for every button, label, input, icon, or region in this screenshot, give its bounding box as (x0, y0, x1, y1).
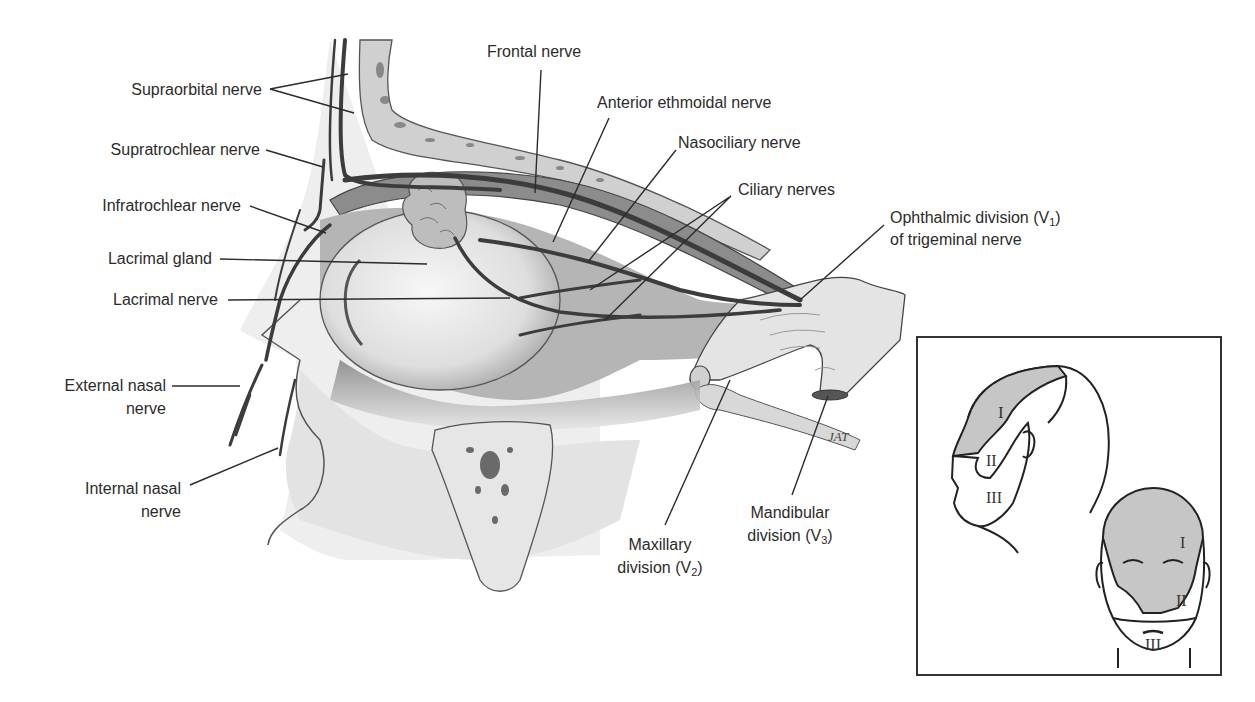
label-mandibular-line1: Mandibular (730, 503, 850, 522)
label-external-nasal-nerve: External nasal nerve (65, 376, 166, 418)
dermatome-drawings: I II III I II III (918, 338, 1220, 674)
label-maxillary-division: Maxillary division (V2) (600, 535, 720, 577)
trigeminal-ganglion (690, 277, 905, 395)
frontal-region-I (1103, 488, 1203, 613)
label-lacrimal-nerve: Lacrimal nerve (113, 290, 218, 309)
label-maxillary-line1: Maxillary (600, 535, 720, 554)
frontal-label-III: III (1145, 636, 1161, 653)
mandibular-stump (812, 390, 848, 400)
profile-region-I (953, 366, 1066, 456)
leader-internal-nasal (190, 448, 278, 485)
label-ophthalmic-line1: Ophthalmic division (V1) (890, 208, 1061, 227)
label-external-nasal-line2: nerve (65, 399, 166, 418)
label-mandibular-line2: division (V3) (730, 526, 850, 545)
dermatome-inset: I II III I II III (916, 336, 1222, 676)
label-internal-nasal-line2: nerve (85, 502, 181, 521)
artist-signature: JAT (828, 429, 849, 444)
label-nasociliary-nerve: Nasociliary nerve (678, 133, 801, 152)
label-ophthalmic-division: Ophthalmic division (V1) of trigeminal n… (890, 208, 1061, 249)
label-internal-nasal-line1: Internal nasal (85, 479, 181, 498)
label-lacrimal-gland: Lacrimal gland (108, 249, 212, 268)
label-ciliary-nerves: Ciliary nerves (738, 180, 835, 199)
label-anterior-ethmoidal-nerve: Anterior ethmoidal nerve (597, 93, 771, 112)
label-internal-nasal-nerve: Internal nasal nerve (85, 479, 181, 521)
profile-label-II: II (986, 452, 997, 469)
frontal-label-I: I (1180, 534, 1185, 551)
frontal-label-II: II (1176, 592, 1187, 609)
label-infratrochlear-nerve: Infratrochlear nerve (102, 196, 241, 215)
frontal-mouth (1143, 631, 1163, 633)
label-maxillary-line2: division (V2) (600, 558, 720, 577)
label-external-nasal-line1: External nasal (65, 376, 166, 395)
label-ophthalmic-line2: of trigeminal nerve (890, 230, 1061, 249)
label-mandibular-division: Mandibular division (V3) (730, 503, 850, 545)
label-frontal-nerve: Frontal nerve (487, 42, 581, 61)
leader-mandibular (792, 396, 828, 495)
label-supraorbital-nerve: Supraorbital nerve (131, 80, 262, 99)
profile-label-III: III (986, 489, 1002, 506)
profile-label-I: I (998, 403, 1004, 422)
label-supratrochlear-nerve: Supratrochlear nerve (111, 140, 260, 159)
